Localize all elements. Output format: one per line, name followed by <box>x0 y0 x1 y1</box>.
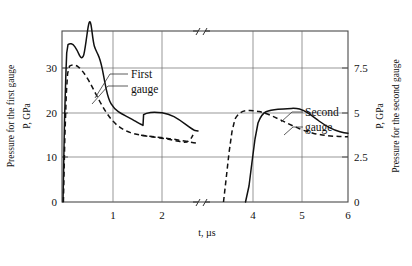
left-tick-20: 20 <box>46 107 58 119</box>
x-tick-2: 2 <box>159 209 165 221</box>
axis-break-marks <box>193 28 210 206</box>
first-gauge-label-line1: First <box>131 68 153 80</box>
x-axis-title: t, µs <box>198 227 216 238</box>
second-gauge-leader-solid <box>281 112 303 122</box>
right-tick-7-5: 7.5 <box>354 62 368 74</box>
right-axis-title-units: P, GPa <box>375 103 385 129</box>
chart-svg: 30 20 10 0 7.5 5 2.5 0 1 2 4 5 6 t, µs P… <box>0 0 412 266</box>
series-first-gauge-experiment <box>63 22 198 202</box>
left-tick-30: 30 <box>46 62 58 74</box>
second-gauge-label-line2: gauge <box>305 121 332 134</box>
right-tick-2-5: 2.5 <box>354 151 368 163</box>
right-tick-5-0: 5 <box>354 107 360 119</box>
series-second-gauge-experiment <box>246 108 349 202</box>
left-tick-10: 10 <box>46 151 58 163</box>
annotation-second-gauge: Second gauge <box>281 106 339 135</box>
x-tick-5: 5 <box>299 209 305 221</box>
left-axis-tick-labels: 30 20 10 0 <box>46 62 58 208</box>
second-gauge-leader-dashed <box>284 127 303 135</box>
x-tick-4: 4 <box>250 209 256 221</box>
right-axis-title-main: Pressure for the second gauge <box>391 59 401 172</box>
left-axis-title-main: Pressure for the first gauge <box>6 65 16 167</box>
x-tick-6: 6 <box>345 209 351 221</box>
chart-figure: 30 20 10 0 7.5 5 2.5 0 1 2 4 5 6 t, µs P… <box>0 0 412 266</box>
x-axis-tick-labels: 1 2 4 5 6 <box>110 209 351 221</box>
second-gauge-label-line1: Second <box>305 106 339 118</box>
right-tick-0: 0 <box>354 196 360 208</box>
first-gauge-label-line2: gauge <box>131 83 158 96</box>
right-axis-tick-labels: 7.5 5 2.5 0 <box>354 62 368 208</box>
left-tick-0: 0 <box>52 196 58 208</box>
annotation-first-gauge: First gauge <box>92 68 158 104</box>
right-axis-ticks <box>342 68 348 157</box>
left-axis-title-units: P, GPa <box>22 103 32 129</box>
x-tick-1: 1 <box>110 209 116 221</box>
